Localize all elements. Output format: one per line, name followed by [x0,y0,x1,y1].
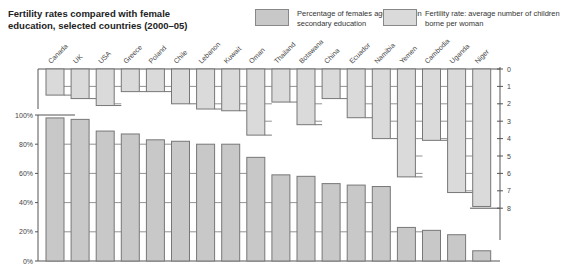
education-tick-label: 40% [19,199,33,206]
education-bar-uk [71,119,89,261]
country-label: China [323,47,341,65]
fertility-tick-label: 1 [507,83,511,90]
country-label: Yemen [398,44,418,64]
fertility-tick-label: 8 [507,205,511,212]
education-tick-label: 0% [23,258,33,265]
fertility-bar-poland [146,69,164,92]
country-label: Uganda [448,42,471,65]
country-label: Cambodia [423,37,451,65]
education-tick-label: 60% [19,170,33,177]
country-label: Chile [172,48,188,64]
fertility-bar-canada [46,69,64,95]
country-label: Kuwait [222,45,242,65]
education-bar-oman [247,157,265,261]
education-bar-thailand [272,175,290,261]
fertility-bar-ecuador [347,69,365,118]
country-label: Niger [473,47,491,65]
fertility-bar-namibia [372,69,390,139]
education-bar-uganda [448,235,466,261]
education-tick-label: 20% [19,228,33,235]
fertility-bar-usa [96,69,114,106]
fertility-bar-niger [473,69,491,206]
country-label: Canada [47,42,69,64]
education-tick-label: 80% [19,141,33,148]
country-label: Lebanon [197,40,221,64]
country-label: Ecuador [348,41,372,65]
fertility-tick-label: 0 [507,66,511,73]
fertility-bar-greece [121,69,139,92]
fertility-bar-cambodia [423,69,441,140]
education-bar-niger [473,251,491,261]
fertility-bar-botswana [297,69,315,125]
fertility-bar-kuwait [222,69,240,111]
fertility-bar-china [322,69,340,99]
country-label: Greece [122,43,143,64]
fertility-bar-chile [172,69,190,104]
education-bar-usa [96,131,114,261]
education-bar-yemen [397,227,415,261]
education-bar-kuwait [222,144,240,261]
education-bar-china [322,184,340,261]
fertility-tick-label: 7 [507,187,511,194]
fertility-bar-lebanon [197,69,215,109]
fertility-bar-yemen [397,69,415,177]
fertility-bar-uganda [448,69,466,193]
education-bar-namibia [372,187,390,261]
fertility-tick-label: 3 [507,118,511,125]
education-bar-lebanon [197,144,215,261]
fertility-tick-label: 6 [507,170,511,177]
country-label: USA [97,49,112,64]
education-bar-poland [146,140,164,261]
education-bar-canada [46,118,64,261]
fertility-bar-uk [71,69,89,99]
country-label: Namibia [373,42,396,65]
fertility-bar-oman [247,69,265,135]
country-label: Poland [147,44,167,64]
fertility-tick-label: 2 [507,100,511,107]
country-label: Thailand [273,41,297,65]
education-bar-greece [121,134,139,261]
education-bar-ecuador [347,185,365,261]
country-label: UK [72,53,84,65]
fertility-bar-thailand [272,69,290,102]
education-tick-label: 100% [15,112,33,119]
fertility-tick-label: 4 [507,135,511,142]
education-bar-botswana [297,176,315,261]
education-bar-cambodia [423,230,441,261]
country-label: Oman [248,46,267,65]
education-bar-chile [172,141,190,261]
fertility-tick-label: 5 [507,153,511,160]
country-label: Botswana [298,38,325,65]
